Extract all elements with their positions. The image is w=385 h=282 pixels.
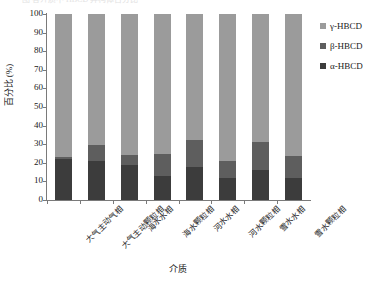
legend-item[interactable]: β-HBCD xyxy=(320,36,385,56)
y-axis-tick-label: 90 xyxy=(34,27,43,38)
x-axis-title: 介质 xyxy=(0,262,385,275)
legend-swatch xyxy=(320,23,326,29)
y-axis-tick-label: 20 xyxy=(34,157,43,168)
bar-segment-beta[interactable] xyxy=(186,140,203,167)
legend-item[interactable]: γ-HBCD xyxy=(320,16,385,36)
bar-segment-alpha[interactable] xyxy=(285,178,302,200)
y-axis-tick-label: 80 xyxy=(34,45,43,56)
y-axis-tick-mark xyxy=(43,70,47,71)
x-axis-tick-mark xyxy=(179,200,180,204)
y-axis-tick-label: 60 xyxy=(34,82,43,93)
x-axis-tick-mark xyxy=(80,200,81,204)
bar-segment-beta[interactable] xyxy=(121,155,138,164)
bar-segment-gamma[interactable] xyxy=(121,14,138,155)
bar-segment-alpha[interactable] xyxy=(154,176,171,200)
y-axis-tick-mark xyxy=(43,14,47,15)
bar-stack[interactable] xyxy=(252,14,269,200)
y-axis-tick-label: 100 xyxy=(30,8,44,19)
x-axis-category-label: 河水水相 xyxy=(210,203,240,233)
y-axis-tick-label: 50 xyxy=(34,101,43,112)
x-axis-title-text: 介质 xyxy=(169,262,187,275)
y-axis-tick-mark xyxy=(43,88,47,89)
bar-segment-gamma[interactable] xyxy=(154,14,171,154)
bar-segment-alpha[interactable] xyxy=(252,170,269,200)
y-axis-tick-mark xyxy=(43,107,47,108)
y-axis-title: 百分比 (%) xyxy=(2,45,16,125)
stacked-bar-chart: 百分比 (%) 0102030405060708090100 大气主动气相大气主… xyxy=(0,0,385,282)
bar-stack[interactable] xyxy=(154,14,171,200)
x-axis-category-label: 雪水颗粒相 xyxy=(311,203,347,239)
bar-segment-gamma[interactable] xyxy=(252,14,269,142)
bar-segment-gamma[interactable] xyxy=(186,14,203,140)
x-axis-category-label: 雪水水相 xyxy=(276,203,306,233)
y-axis-tick-label: 0 xyxy=(39,194,44,205)
legend-label: β-HBCD xyxy=(330,41,363,51)
y-axis-tick-mark xyxy=(43,181,47,182)
legend-swatch xyxy=(320,63,326,69)
x-axis-tick-mark xyxy=(277,200,278,204)
y-axis-tick-label: 10 xyxy=(34,175,43,186)
bar-stack[interactable] xyxy=(55,14,72,200)
bar-segment-alpha[interactable] xyxy=(186,167,203,200)
bar-stack[interactable] xyxy=(186,14,203,200)
bar-segment-alpha[interactable] xyxy=(88,161,105,200)
y-axis-tick-mark xyxy=(43,144,47,145)
legend-label: α-HBCD xyxy=(330,61,363,71)
y-axis-tick-label: 30 xyxy=(34,138,43,149)
x-axis-tick-mark xyxy=(146,200,147,204)
bar-segment-gamma[interactable] xyxy=(88,14,105,145)
x-axis-tick-mark xyxy=(47,200,48,204)
legend-label: γ-HBCD xyxy=(330,21,362,31)
bar-segment-beta[interactable] xyxy=(55,157,72,159)
y-axis-tick-label: 40 xyxy=(34,120,43,131)
y-axis-tick-label: 70 xyxy=(34,64,43,75)
legend-item[interactable]: α-HBCD xyxy=(320,56,385,76)
bar-segment-beta[interactable] xyxy=(252,142,269,170)
bar-stack[interactable] xyxy=(219,14,236,200)
y-axis-tick-mark xyxy=(43,163,47,164)
plot-area: 0102030405060708090100 xyxy=(47,14,310,200)
bar-segment-alpha[interactable] xyxy=(219,178,236,200)
x-axis-tick-mark xyxy=(211,200,212,204)
bar-segment-alpha[interactable] xyxy=(55,159,72,200)
bar-stack[interactable] xyxy=(121,14,138,200)
legend-swatch xyxy=(320,43,326,49)
bar-segment-gamma[interactable] xyxy=(285,14,302,156)
bar-segment-beta[interactable] xyxy=(285,156,302,177)
x-axis-tick-mark xyxy=(244,200,245,204)
y-axis-tick-mark xyxy=(43,126,47,127)
x-axis-category-label: 海水颗粒相 xyxy=(180,203,216,239)
bar-segment-beta[interactable] xyxy=(154,154,171,176)
bar-segment-beta[interactable] xyxy=(219,161,236,178)
bar-segment-gamma[interactable] xyxy=(219,14,236,161)
x-axis-category-label: 大气主动气相 xyxy=(83,203,125,245)
y-axis-tick-mark xyxy=(43,33,47,34)
chart-legend: γ-HBCDβ-HBCDα-HBCD xyxy=(320,16,385,76)
bar-segment-alpha[interactable] xyxy=(121,165,138,200)
y-axis-tick-mark xyxy=(43,51,47,52)
bar-segment-gamma[interactable] xyxy=(55,14,72,157)
x-axis-tick-mark xyxy=(113,200,114,204)
bar-segment-beta[interactable] xyxy=(88,145,105,161)
bar-stack[interactable] xyxy=(88,14,105,200)
bar-stack[interactable] xyxy=(285,14,302,200)
x-axis-category-label: 河水颗粒相 xyxy=(246,203,282,239)
